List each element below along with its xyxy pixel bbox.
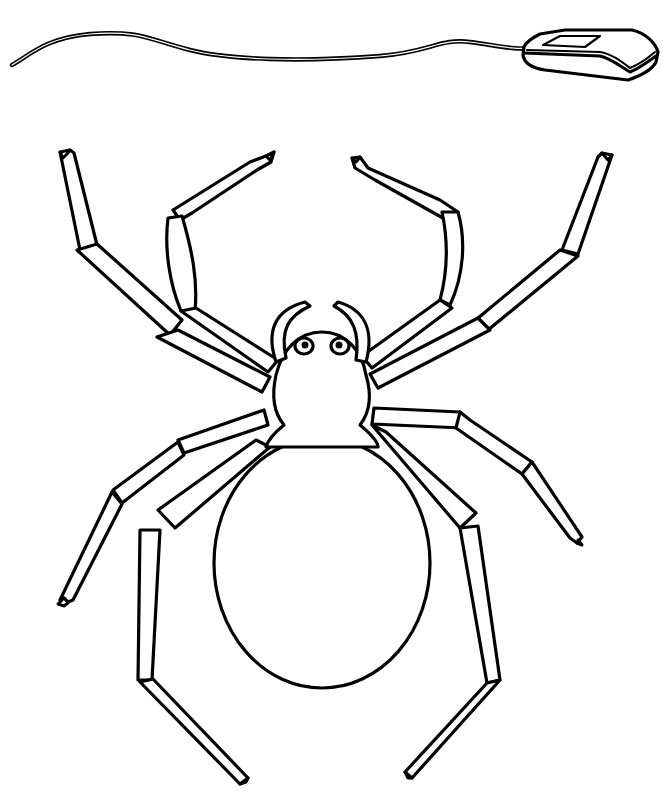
computer-mouse-icon [523,30,658,80]
spider-abdomen [214,438,430,688]
mouse-cord [12,33,535,65]
spider-legs-left [60,150,278,784]
line-art [0,0,671,807]
illustration-canvas: black-and-white line art coloring page [0,0,671,807]
